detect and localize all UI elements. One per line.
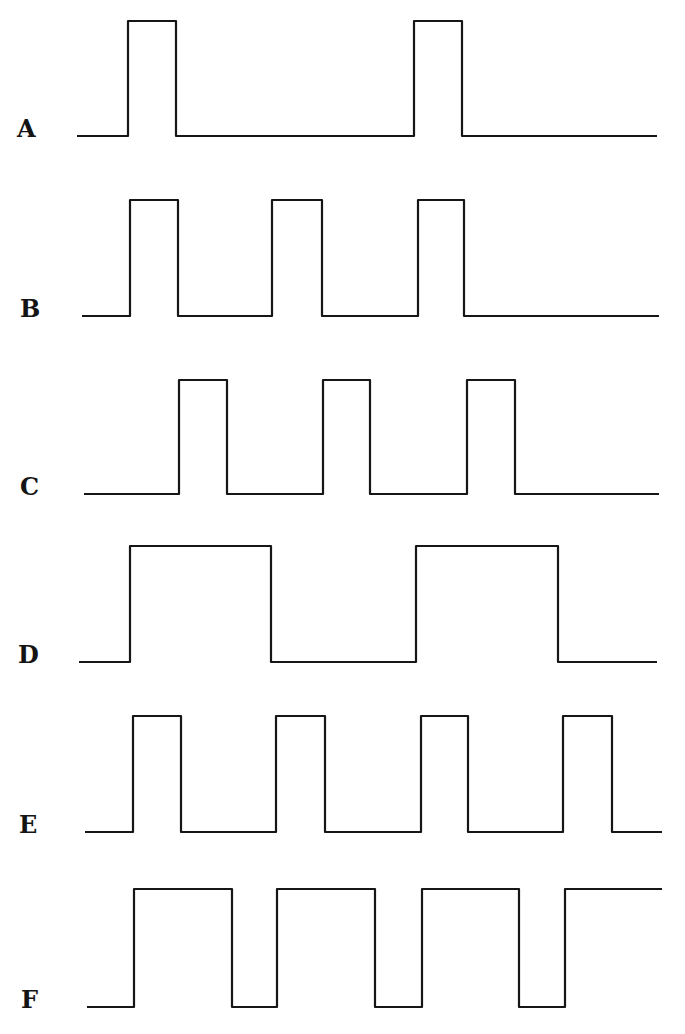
waveform-e	[85, 716, 662, 832]
waveform-figure: A B C D E F	[0, 0, 685, 1034]
waveform-label-d: D	[18, 643, 39, 667]
waveform-d	[79, 546, 657, 662]
waveform-label-f: F	[21, 988, 38, 1012]
waveform-a	[77, 21, 657, 136]
waveform-label-c: C	[20, 475, 39, 499]
waveform-f	[87, 889, 662, 1007]
waveform-canvas	[0, 0, 685, 1034]
waveform-label-a: A	[17, 117, 36, 141]
waveform-label-b: B	[20, 297, 40, 321]
waveform-label-e: E	[19, 813, 37, 837]
waveform-c	[84, 380, 659, 494]
waveform-b	[82, 200, 659, 316]
